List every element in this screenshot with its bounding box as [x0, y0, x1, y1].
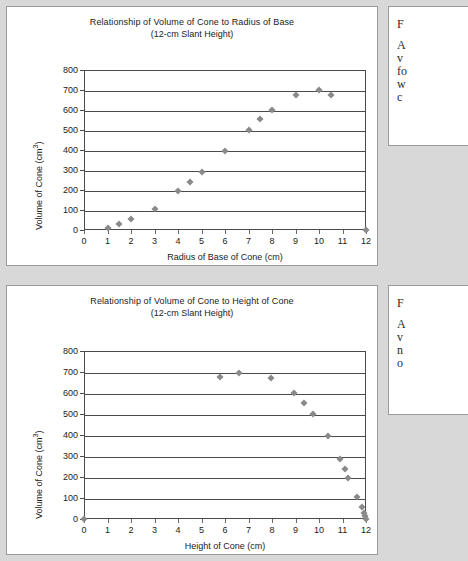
side-note-top-line: fo	[397, 65, 462, 78]
x-axis-tick-mark	[319, 230, 320, 234]
y-axis-tick-label: 100	[44, 206, 78, 215]
gridline	[85, 211, 365, 212]
x-axis-tick-label: 0	[74, 237, 94, 246]
x-axis-tick-label: 12	[356, 237, 376, 246]
gridline	[85, 394, 365, 395]
side-note-bottom-heading: F	[397, 296, 462, 311]
x-axis-tick-mark	[155, 519, 156, 523]
chart-panel-height: Relationship of Volume of Cone to Height…	[6, 285, 378, 555]
chart-panel-radius: Relationship of Volume of Cone to Radius…	[6, 6, 378, 266]
x-axis-tick-label: 10	[309, 526, 329, 535]
y-axis-tick-mark	[80, 110, 84, 111]
y-axis-tick-label: 200	[44, 473, 78, 482]
x-axis-tick-label: 12	[356, 526, 376, 535]
chart-title-radius: Relationship of Volume of Cone to Radius…	[7, 7, 377, 28]
x-axis-tick-mark	[84, 230, 85, 234]
x-axis-tick-label: 8	[262, 237, 282, 246]
x-axis-tick-mark	[296, 519, 297, 523]
side-note-top-line: A	[397, 39, 462, 52]
y-axis-tick-mark	[80, 170, 84, 171]
x-axis-tick-mark	[131, 519, 132, 523]
gridline	[85, 171, 365, 172]
y-axis-tick-mark	[80, 414, 84, 415]
y-axis-tick-mark	[80, 70, 84, 71]
y-axis-tick-label: 0	[44, 515, 78, 524]
y-axis-tick-mark	[80, 372, 84, 373]
gridline	[85, 436, 365, 437]
x-axis-tick-mark	[319, 519, 320, 523]
x-axis-tick-mark	[249, 230, 250, 234]
chart-title-height: Relationship of Volume of Cone to Height…	[7, 286, 377, 307]
x-axis-tick-mark	[343, 230, 344, 234]
side-note-bottom-line: A	[397, 318, 462, 331]
y-axis-tick-mark	[80, 351, 84, 352]
y-axis-tick-mark	[80, 393, 84, 394]
gridline	[85, 415, 365, 416]
y-axis-tick-label: 0	[44, 226, 78, 235]
gridline	[85, 111, 365, 112]
x-axis-tick-label: 0	[74, 526, 94, 535]
gridline	[85, 131, 365, 132]
y-axis-tick-label: 600	[44, 389, 78, 398]
x-axis-tick-mark	[225, 519, 226, 523]
x-axis-tick-label: 4	[168, 526, 188, 535]
x-axis-tick-label: 11	[333, 526, 353, 535]
y-axis-tick-label: 100	[44, 494, 78, 503]
data-point-marker	[362, 226, 369, 233]
side-note-top-heading: F	[397, 17, 462, 32]
x-axis-tick-label: 3	[145, 526, 165, 535]
y-axis-tick-label: 500	[44, 410, 78, 419]
x-axis-tick-mark	[202, 519, 203, 523]
y-axis-tick-mark	[80, 456, 84, 457]
y-axis-tick-label: 700	[44, 368, 78, 377]
y-axis-tick-mark	[80, 90, 84, 91]
y-axis-tick-mark	[80, 498, 84, 499]
x-axis-tick-label: 1	[98, 237, 118, 246]
x-axis-tick-label: 2	[121, 526, 141, 535]
chart-subtitle-radius: (12-cm Slant Height)	[7, 28, 377, 40]
side-note-top-line: w	[397, 78, 462, 91]
x-axis-tick-label: 6	[215, 237, 235, 246]
x-axis-tick-label: 7	[239, 526, 259, 535]
x-axis-tick-label: 10	[309, 237, 329, 246]
x-axis-tick-label: 3	[145, 237, 165, 246]
x-axis-tick-label: 2	[121, 237, 141, 246]
y-axis-tick-label: 400	[44, 431, 78, 440]
x-axis-tick-mark	[131, 230, 132, 234]
side-note-bottom-body: F A v n o	[389, 286, 468, 370]
side-note-top-body: F A v fo w c	[389, 7, 468, 104]
x-axis-tick-mark	[202, 230, 203, 234]
side-note-top-line: c	[397, 91, 462, 104]
side-note-panel-bottom: F A v n o	[388, 285, 468, 415]
side-note-bottom-line: o	[397, 357, 462, 370]
y-axis-tick-label: 300	[44, 166, 78, 175]
x-axis-title: Radius of Base of Cone (cm)	[84, 252, 366, 262]
x-axis-tick-mark	[249, 519, 250, 523]
x-axis-tick-label: 9	[286, 526, 306, 535]
y-axis-tick-mark	[80, 150, 84, 151]
y-axis-tick-mark	[80, 130, 84, 131]
gridline	[85, 499, 365, 500]
data-point-marker	[362, 515, 369, 522]
y-axis-tick-mark	[80, 190, 84, 191]
x-axis-tick-label: 5	[192, 237, 212, 246]
side-note-panel-top: F A v fo w c	[388, 6, 468, 146]
y-axis-tick-label: 800	[44, 66, 78, 75]
y-axis-tick-mark	[80, 477, 84, 478]
side-note-bottom-line: n	[397, 344, 462, 357]
side-note-bottom-line: v	[397, 331, 462, 344]
y-axis-tick-label: 200	[44, 186, 78, 195]
x-axis-tick-mark	[343, 519, 344, 523]
gridline	[85, 373, 365, 374]
y-axis-tick-label: 800	[44, 347, 78, 356]
gridline	[85, 478, 365, 479]
x-axis-tick-mark	[155, 230, 156, 234]
gridline	[85, 457, 365, 458]
y-axis-tick-mark	[80, 210, 84, 211]
x-axis-tick-mark	[272, 230, 273, 234]
x-axis-tick-mark	[108, 519, 109, 523]
y-axis-tick-label: 400	[44, 146, 78, 155]
chart-subtitle-height: (12-cm Slant Height)	[7, 307, 377, 319]
x-axis-tick-label: 6	[215, 526, 235, 535]
y-axis-title: Volume of Cone (cm3)	[32, 142, 44, 230]
